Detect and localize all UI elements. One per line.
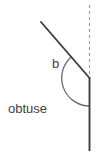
caption-obtuse: obtuse xyxy=(8,102,47,115)
obtuse-angle-figure: b obtuse xyxy=(0,0,106,152)
angle-label-b: b xyxy=(52,57,59,70)
slanted-ray-icon xyxy=(41,22,90,78)
angle-diagram-svg xyxy=(0,0,106,152)
angle-arc-icon xyxy=(62,57,90,106)
